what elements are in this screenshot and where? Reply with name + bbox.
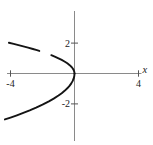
y-tick-label: 2 [65, 38, 70, 49]
x-axis-label: x [142, 64, 148, 75]
curve-upper-branch-left-piece [9, 43, 39, 51]
curve-upper-branch-right-piece [51, 55, 74, 73]
x-tick-label: -4 [6, 78, 14, 89]
plot-canvas: -442-2 x [0, 0, 153, 145]
x-tick-label: 4 [136, 78, 141, 89]
math-plot-figure: -442-2 x [0, 0, 153, 145]
curve-lower-branch [5, 74, 75, 120]
y-tick-label: -2 [62, 98, 70, 109]
